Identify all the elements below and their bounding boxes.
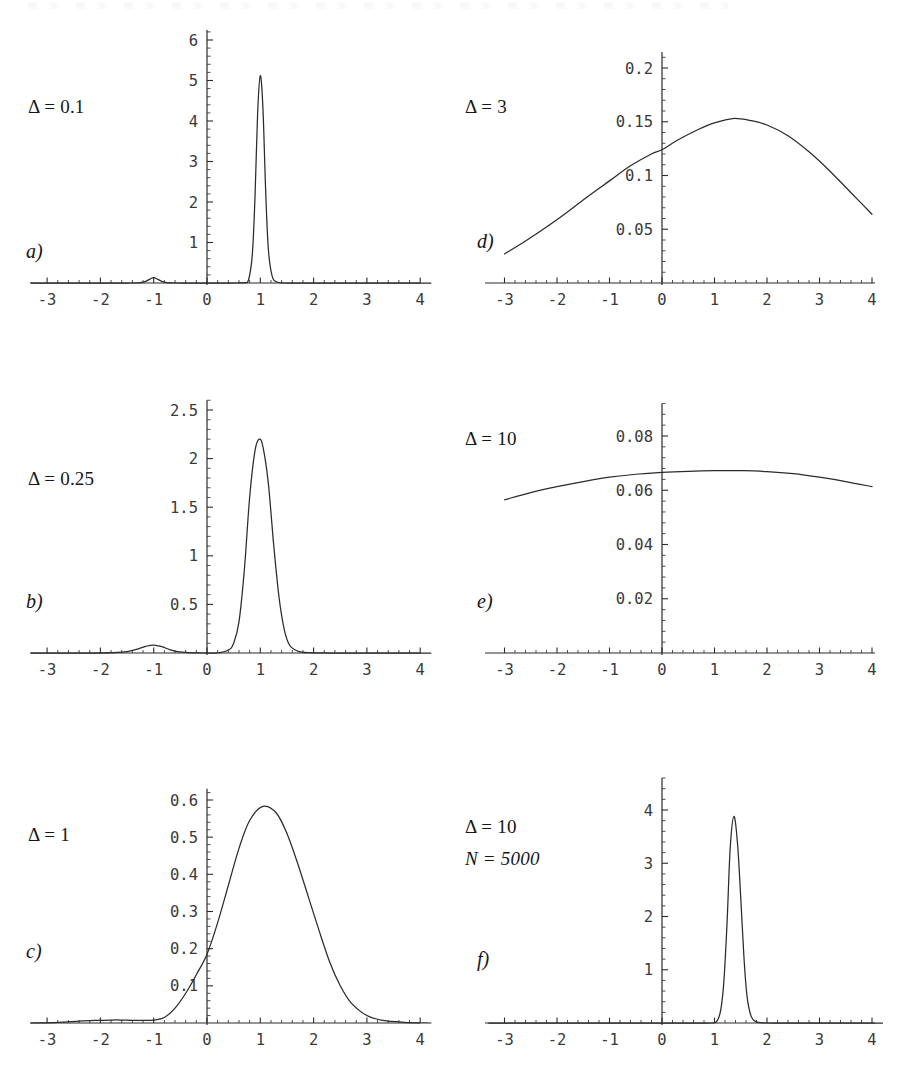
svg-text:0.3: 0.3	[170, 903, 198, 921]
svg-text:-3: -3	[495, 291, 514, 309]
svg-text:-2: -2	[91, 661, 110, 679]
svg-text:-3: -3	[38, 1031, 57, 1049]
svg-text:2: 2	[309, 291, 318, 309]
svg-text:0.15: 0.15	[616, 113, 653, 131]
svg-text:-3: -3	[495, 1031, 514, 1049]
svg-text:4: 4	[416, 291, 425, 309]
svg-text:0: 0	[657, 1031, 666, 1049]
svg-text:-2: -2	[91, 291, 110, 309]
svg-text:-2: -2	[548, 661, 567, 679]
svg-text:4: 4	[644, 802, 653, 820]
panel-d-letter: d)	[477, 230, 494, 253]
svg-text:2: 2	[189, 450, 198, 468]
svg-text:-1: -1	[600, 291, 619, 309]
svg-text:0.1: 0.1	[625, 167, 653, 185]
svg-text:4: 4	[867, 1031, 876, 1049]
panel-d-plot: -3-2-1012340.050.10.150.2	[453, 8, 905, 364]
panel-d-delta-label: Δ = 3	[465, 96, 507, 118]
svg-text:0: 0	[202, 661, 211, 679]
svg-text:-2: -2	[548, 291, 567, 309]
svg-text:0.4: 0.4	[170, 866, 198, 884]
svg-text:-2: -2	[548, 1031, 567, 1049]
svg-text:1: 1	[710, 1031, 719, 1049]
svg-text:3: 3	[815, 661, 824, 679]
svg-text:-3: -3	[38, 661, 57, 679]
svg-text:0.08: 0.08	[616, 428, 653, 446]
svg-text:2.5: 2.5	[170, 402, 198, 420]
svg-text:4: 4	[416, 1031, 425, 1049]
svg-text:3: 3	[815, 1031, 824, 1049]
panel-b: -3-2-1012340.511.522.5 Δ = 0.25 b)	[0, 378, 452, 734]
svg-text:-2: -2	[91, 1031, 110, 1049]
svg-text:2: 2	[762, 1031, 771, 1049]
panel-a: -3-2-101234123456 Δ = 0.1 a)	[0, 8, 452, 364]
panel-b-letter: b)	[26, 590, 43, 613]
panel-e-delta-label: Δ = 10	[465, 428, 517, 450]
panel-a-letter: a)	[26, 240, 43, 263]
svg-text:0.02: 0.02	[616, 590, 653, 608]
svg-text:2: 2	[644, 908, 653, 926]
svg-text:-3: -3	[38, 291, 57, 309]
svg-text:0.5: 0.5	[170, 596, 198, 614]
svg-text:0.06: 0.06	[616, 482, 653, 500]
svg-text:-1: -1	[600, 661, 619, 679]
svg-text:3: 3	[189, 153, 198, 171]
svg-text:1: 1	[189, 547, 198, 565]
svg-text:2: 2	[189, 194, 198, 212]
svg-text:0: 0	[657, 291, 666, 309]
svg-text:2: 2	[309, 661, 318, 679]
svg-text:4: 4	[416, 661, 425, 679]
svg-text:1.5: 1.5	[170, 499, 198, 517]
svg-text:0: 0	[202, 291, 211, 309]
svg-text:0.2: 0.2	[170, 940, 198, 958]
svg-text:0: 0	[657, 661, 666, 679]
svg-text:3: 3	[644, 855, 653, 873]
svg-text:1: 1	[710, 661, 719, 679]
svg-text:3: 3	[362, 291, 371, 309]
svg-text:5: 5	[189, 72, 198, 90]
svg-text:4: 4	[867, 291, 876, 309]
svg-text:4: 4	[867, 661, 876, 679]
panel-e: -3-2-1012340.020.040.060.08 Δ = 10 e)	[453, 378, 905, 734]
svg-text:1: 1	[189, 234, 198, 252]
svg-text:2: 2	[762, 661, 771, 679]
panel-f-letter: f)	[477, 948, 489, 971]
panel-e-plot: -3-2-1012340.020.040.060.08	[453, 378, 905, 734]
panel-b-delta-label: Δ = 0.25	[28, 468, 94, 490]
panel-c: -3-2-1012340.10.20.30.40.50.6 Δ = 1 c)	[0, 748, 452, 1067]
svg-text:3: 3	[362, 1031, 371, 1049]
svg-text:0.05: 0.05	[616, 221, 653, 239]
svg-text:-1: -1	[600, 1031, 619, 1049]
svg-text:0: 0	[202, 1031, 211, 1049]
svg-text:2: 2	[309, 1031, 318, 1049]
panel-f-delta-label: Δ = 10	[465, 816, 517, 838]
panel-f-n-text: N = 5000	[465, 848, 540, 869]
svg-text:1: 1	[256, 291, 265, 309]
svg-text:1: 1	[710, 291, 719, 309]
figure-container: -3-2-101234123456 Δ = 0.1 a) -3-2-101234…	[0, 0, 905, 1067]
panel-c-delta-label: Δ = 1	[28, 824, 70, 846]
svg-text:0.04: 0.04	[616, 536, 653, 554]
panel-a-delta-label: Δ = 0.1	[28, 96, 85, 118]
svg-text:-1: -1	[144, 661, 163, 679]
svg-text:0.5: 0.5	[170, 829, 198, 847]
svg-text:1: 1	[256, 661, 265, 679]
panel-c-letter: c)	[26, 940, 42, 963]
svg-text:4: 4	[189, 113, 198, 131]
svg-text:-1: -1	[144, 1031, 163, 1049]
svg-text:3: 3	[362, 661, 371, 679]
svg-text:0.6: 0.6	[170, 792, 198, 810]
svg-text:-1: -1	[144, 291, 163, 309]
panel-f-n-label: N = 5000	[465, 848, 540, 870]
panel-d: -3-2-1012340.050.10.150.2 Δ = 3 d)	[453, 8, 905, 364]
svg-text:1: 1	[256, 1031, 265, 1049]
svg-text:-3: -3	[495, 661, 514, 679]
panel-a-plot: -3-2-101234123456	[0, 8, 452, 364]
panel-e-letter: e)	[477, 590, 493, 613]
panel-f: -3-2-1012341234 Δ = 10 N = 5000 f)	[453, 748, 905, 1067]
panel-c-plot: -3-2-1012340.10.20.30.40.50.6	[0, 748, 452, 1067]
svg-text:0.2: 0.2	[625, 60, 653, 78]
svg-text:2: 2	[762, 291, 771, 309]
svg-text:3: 3	[815, 291, 824, 309]
svg-text:6: 6	[189, 32, 198, 50]
